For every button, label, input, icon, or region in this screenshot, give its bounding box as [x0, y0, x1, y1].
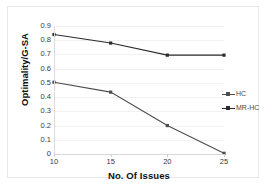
legend-item[interactable]: HC	[222, 87, 267, 101]
legend-item[interactable]: MR-HC	[222, 101, 267, 115]
legend-marker-icon	[222, 105, 235, 112]
x-tick-mark	[111, 154, 112, 157]
y-axis-title: Optimality/G-SA	[19, 24, 30, 116]
series-line	[54, 82, 224, 153]
y-tick-label: 0.8	[41, 36, 51, 44]
x-tick-label: 25	[212, 157, 236, 166]
y-tick-label: 0.9	[41, 22, 51, 30]
data-point-marker	[166, 124, 169, 127]
y-tick-label: 0.7	[41, 50, 51, 58]
x-tick-label: 10	[42, 157, 66, 166]
x-tick-mark	[54, 154, 55, 157]
data-point-marker	[222, 54, 225, 57]
y-tick-label: 0.1	[41, 136, 51, 144]
x-axis-title: No. Of Issues	[54, 170, 224, 181]
chart-legend: HCMR-HC	[222, 87, 267, 115]
x-axis-line	[54, 154, 224, 155]
y-tick-label: 0.5	[41, 79, 51, 87]
x-tick-label: 20	[155, 157, 179, 166]
data-point-marker	[109, 41, 112, 44]
legend-label: MR-HC	[236, 104, 259, 112]
legend-label: HC	[236, 90, 246, 98]
x-tick-label: 15	[99, 157, 123, 166]
y-axis-line	[54, 26, 55, 155]
y-tick-label: 0.4	[41, 93, 51, 101]
plot-area	[54, 26, 224, 154]
legend-marker-icon	[222, 91, 235, 98]
y-tick-label: 0.3	[41, 107, 51, 115]
series-line	[54, 35, 224, 56]
data-point-marker	[166, 54, 169, 57]
chart-screenshot: 0.90.80.70.60.50.40.30.20.10 10152025 No…	[0, 0, 267, 186]
y-tick-label: 0.6	[41, 65, 51, 73]
series-lines	[54, 26, 224, 154]
data-point-marker	[109, 91, 112, 94]
x-tick-mark	[167, 154, 168, 157]
x-tick-mark	[224, 154, 225, 157]
y-tick-label: 0.2	[41, 122, 51, 130]
figure-frame: 0.90.80.70.60.50.40.30.20.10 10152025 No…	[7, 6, 259, 178]
